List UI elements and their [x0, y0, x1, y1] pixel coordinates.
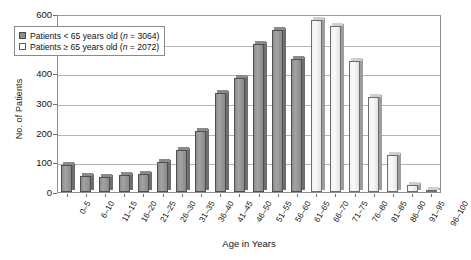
x-axis-tick-mark	[201, 194, 202, 197]
x-axis-tick-label: 46–50	[256, 200, 274, 224]
x-axis-tick-mark	[335, 194, 336, 197]
x-axis-tick-mark	[374, 194, 375, 197]
bar	[253, 44, 264, 192]
bar	[119, 175, 130, 192]
bar-front-face	[407, 185, 418, 192]
bar-front-face	[61, 165, 72, 192]
bar-side-face	[226, 91, 229, 190]
legend-swatch-over-65	[19, 43, 26, 50]
bar	[157, 162, 168, 192]
bar-front-face	[368, 97, 379, 192]
bar	[349, 61, 360, 192]
chart-legend: Patients < 65 years old (n = 3064) Patie…	[14, 26, 165, 56]
legend-label-over-65: Patients ≥ 65 years old (n = 2072)	[30, 42, 159, 52]
x-axis-tick-label: 66–70	[333, 200, 351, 224]
bar-side-face	[130, 173, 133, 190]
bar	[387, 155, 398, 192]
y-axis-tick-label: 600	[8, 10, 52, 19]
legend-item-over-65: Patients ≥ 65 years old (n = 2072)	[19, 41, 159, 52]
bar-front-face	[176, 150, 187, 192]
bar-side-face	[110, 175, 113, 190]
bar-side-face	[283, 28, 286, 190]
x-axis-tick-mark	[67, 194, 68, 197]
bar	[426, 190, 437, 192]
bar	[195, 131, 206, 192]
y-axis-tick-label: 200	[8, 129, 52, 138]
y-axis-tick-label: 300	[8, 99, 52, 108]
bar	[330, 26, 341, 192]
bar-front-face	[99, 177, 110, 192]
x-axis-tick-mark	[431, 194, 432, 197]
bar-side-face	[341, 24, 344, 190]
bar	[311, 20, 322, 192]
x-axis-tick-label: 71–75	[352, 200, 370, 224]
x-axis-tick-label: 86–90	[409, 200, 427, 224]
x-axis-tick-label: 51–55	[275, 200, 293, 224]
x-axis-tick-label: 11–15	[121, 200, 139, 223]
x-axis-tick-label: 31–35	[198, 200, 216, 224]
bar-front-face	[311, 20, 322, 192]
x-axis-tick-label: 16–20	[141, 200, 159, 224]
x-axis-tick-mark	[316, 194, 317, 197]
bar	[61, 165, 72, 192]
x-axis-tick-label: 26–30	[179, 200, 197, 224]
bar-front-face	[272, 30, 283, 192]
y-axis-tick-label: 400	[8, 69, 52, 78]
bar-front-face	[215, 93, 226, 192]
y-axis-title: No. of Patients	[14, 44, 24, 174]
bar-front-face	[253, 44, 264, 192]
bar-side-face	[302, 57, 305, 191]
x-axis-tick-label: 41–45	[237, 200, 255, 224]
bar-front-face	[234, 78, 245, 192]
bar	[368, 97, 379, 192]
bar-front-face	[195, 131, 206, 192]
x-axis-tick-label: 61–65	[313, 200, 331, 224]
x-axis-tick-mark	[105, 194, 106, 197]
x-axis-tick-label: 56–60	[294, 200, 312, 224]
x-axis-tick-label: 96–100	[450, 200, 471, 228]
x-axis-tick-mark	[86, 194, 87, 197]
bar-front-face	[387, 155, 398, 192]
bar-front-face	[426, 190, 437, 192]
x-axis-tick-mark	[143, 194, 144, 197]
bar-front-face	[138, 174, 149, 192]
x-axis-tick-label: 0–5	[78, 200, 92, 216]
x-axis-title: Age in Years	[57, 238, 441, 249]
legend-swatch-under-65	[19, 32, 26, 39]
bar	[99, 177, 110, 192]
bar-front-face	[349, 61, 360, 192]
bar-side-face	[360, 59, 363, 190]
x-axis-tick-mark	[239, 194, 240, 197]
x-axis-tick-labels: 0–56–1011–1516–2021–2526–3031–3536–4041–…	[57, 194, 441, 240]
bar-side-face	[322, 18, 325, 190]
x-axis-tick-mark	[163, 194, 164, 197]
bar	[407, 185, 418, 192]
x-axis-tick-label: 76–80	[371, 200, 389, 224]
bar	[176, 150, 187, 192]
bar-front-face	[119, 175, 130, 192]
bar-side-face	[264, 42, 267, 190]
y-axis-tick-label: 100	[8, 158, 52, 167]
x-axis-tick-label: 81–85	[390, 200, 408, 224]
bar-front-face	[330, 26, 341, 192]
y-axis-tick-label: 0	[8, 188, 52, 197]
legend-item-under-65: Patients < 65 years old (n = 3064)	[19, 30, 159, 41]
x-axis-tick-label: 36–40	[217, 200, 235, 224]
bar	[138, 174, 149, 192]
bar-front-face	[157, 162, 168, 192]
x-axis-tick-label: 21–25	[160, 200, 178, 224]
bar-side-face	[245, 76, 248, 190]
x-axis-tick-mark	[259, 194, 260, 197]
bar-side-face	[91, 174, 94, 190]
bar-side-face	[72, 163, 75, 190]
legend-label-under-65: Patients < 65 years old (n = 3064)	[30, 31, 159, 41]
x-axis-tick-label: 91–95	[429, 200, 447, 224]
x-axis-tick-mark	[412, 194, 413, 197]
x-axis-tick-mark	[220, 194, 221, 197]
bar	[291, 59, 302, 193]
bar-side-face	[187, 148, 190, 190]
x-axis-tick-mark	[355, 194, 356, 197]
bar	[272, 30, 283, 192]
bar-side-face	[206, 129, 209, 190]
